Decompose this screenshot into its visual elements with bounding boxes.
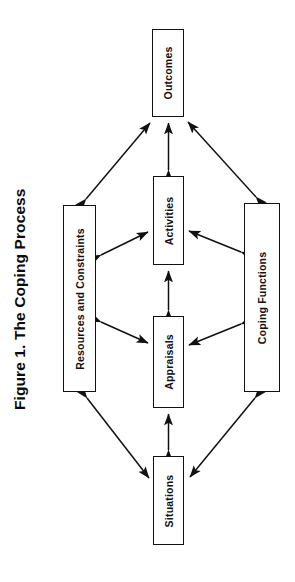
edge-coping-outcomes	[188, 122, 256, 197]
edge-resources-appraisals	[101, 322, 148, 343]
edge-resources-activities	[101, 232, 148, 255]
edge-coping-situations	[190, 398, 255, 477]
node-activities[interactable]: Activities	[153, 176, 184, 265]
edge-coping-activities	[189, 231, 241, 252]
figure-title: Figure 1. The Coping Process	[2, 170, 38, 410]
node-resources-and-constraints-label: Resources and Constraints	[74, 228, 86, 370]
node-activities-label: Activities	[163, 196, 175, 245]
node-coping-functions[interactable]: Coping Functions	[244, 203, 280, 392]
node-resources-and-constraints[interactable]: Resources and Constraints	[63, 205, 96, 392]
node-appraisals[interactable]: Appraisals	[153, 316, 184, 408]
edge-coping-appraisals	[189, 324, 241, 345]
node-situations-label: Situations	[163, 474, 175, 527]
node-outcomes-label: Outcomes	[162, 47, 174, 100]
coping-process-figure: Figure 1. The Coping Process Outcomes Ac…	[0, 0, 295, 582]
node-outcomes[interactable]: Outcomes	[152, 29, 184, 117]
node-situations[interactable]: Situations	[153, 456, 184, 545]
node-coping-functions-label: Coping Functions	[256, 251, 268, 343]
edge-resources-situations	[87, 398, 149, 478]
node-appraisals-label: Appraisals	[163, 334, 175, 390]
edge-resources-outcomes	[86, 123, 150, 199]
